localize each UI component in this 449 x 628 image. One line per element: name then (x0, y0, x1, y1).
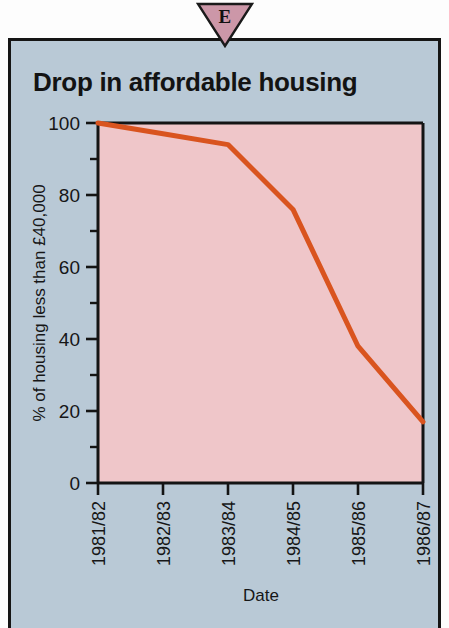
x-tick-label: 1986/87 (414, 501, 434, 566)
badge-letter: E (196, 6, 254, 28)
line-chart-svg: 100 80 60 40 20 0 % of housing less than… (11, 41, 444, 628)
y-tick-label: 60 (59, 257, 80, 278)
y-axis-tick-labels: 100 80 60 40 20 0 (48, 113, 80, 494)
x-axis-tick-labels: 1981/82 1982/83 1983/84 1984/85 1985/86 … (89, 501, 434, 566)
x-tick-label: 1982/83 (154, 501, 174, 566)
section-badge: E (196, 2, 254, 48)
y-tick-label: 20 (59, 401, 80, 422)
x-tick-label: 1985/86 (349, 501, 369, 566)
y-tick-label: 40 (59, 329, 80, 350)
y-tick-label: 80 (59, 185, 80, 206)
chart-panel: Drop in affordable housing (8, 38, 441, 628)
plot-area: 100 80 60 40 20 0 % of housing less than… (11, 41, 444, 628)
x-tick-label: 1983/84 (219, 501, 239, 566)
x-tick-label: 1984/85 (284, 501, 304, 566)
page-canvas: E Drop in affordable housing (0, 0, 449, 628)
y-axis-title: % of housing less than £40,000 (30, 184, 49, 421)
x-tick-label: 1981/82 (89, 501, 109, 566)
x-axis-title: Date (243, 586, 279, 605)
y-tick-label: 100 (48, 113, 80, 134)
x-axis-ticks (98, 483, 423, 495)
y-tick-label: 0 (69, 473, 80, 494)
